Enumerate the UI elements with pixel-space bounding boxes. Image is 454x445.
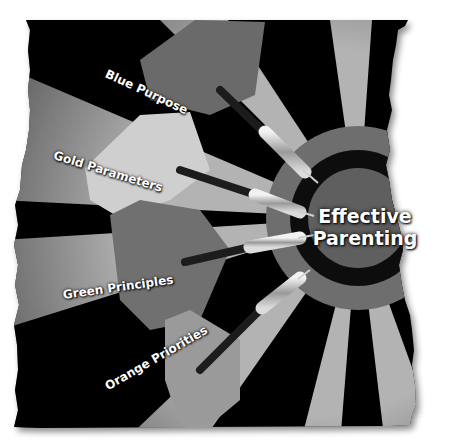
center-title-line2: Parenting xyxy=(300,227,430,249)
center-title: Effective Parenting xyxy=(300,205,430,249)
center-title-line1: Effective xyxy=(300,205,430,227)
